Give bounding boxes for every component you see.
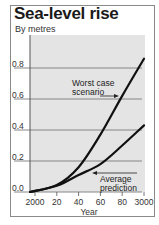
- y-tick-label: 0.4: [12, 121, 24, 131]
- plot-background: [30, 35, 145, 192]
- x-tick-labels: 2000204060803000: [26, 197, 154, 207]
- y-tick-label: 0.2: [12, 152, 24, 162]
- x-axis-title: Year: [80, 207, 97, 217]
- x-tick-label: 20: [52, 197, 62, 207]
- svg-text:prediction: prediction: [100, 183, 137, 193]
- x-tick-label: 60: [96, 197, 106, 207]
- x-tick-label: 2000: [26, 197, 45, 207]
- y-tick-label: 0.0: [12, 183, 24, 193]
- y-tick-labels: 0.00.20.40.60.8: [12, 59, 24, 193]
- y-tick-label: 0.6: [12, 90, 24, 100]
- x-tick-label: 80: [117, 197, 127, 207]
- y-tick-label: 0.8: [12, 59, 24, 69]
- svg-text:scenario: scenario: [72, 87, 104, 97]
- plot-area: 0.00.20.40.60.8 2000204060803000 Year Wo…: [0, 0, 159, 225]
- x-tick-label: 3000: [135, 197, 154, 207]
- x-tick-label: 40: [74, 197, 84, 207]
